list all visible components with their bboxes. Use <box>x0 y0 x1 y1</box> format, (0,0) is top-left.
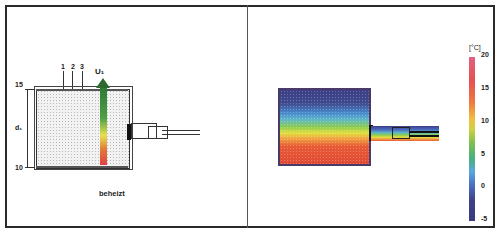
pipe-core-bottom <box>409 135 439 137</box>
pipe-core-top <box>409 131 439 133</box>
schematic-panel: 1 2 3 U₁ 15 10 d₁ beheizt <box>7 7 247 226</box>
colorbar-tick-10: 10 <box>481 117 489 124</box>
colorbar-tick-minus5: -5 <box>481 215 487 222</box>
temperature-colorbar <box>469 57 475 221</box>
colorbar-tick-0: 0 <box>481 182 485 189</box>
mesh-pattern <box>280 90 369 164</box>
pipe-line-bottom <box>162 134 200 135</box>
temperature-field <box>278 88 371 166</box>
heat-flow-arrow <box>100 87 107 165</box>
thermal-panel: [°C] 20 15 10 5 0 -5 <box>249 7 493 226</box>
colorbar-tick-20: 20 <box>481 51 489 58</box>
pipe-line-top <box>162 130 200 131</box>
colorbar-tick-15: 15 <box>481 84 489 91</box>
top-surface <box>36 89 128 91</box>
pipe-fitting <box>148 126 168 139</box>
layer-label-3: 3 <box>80 63 84 70</box>
insulation-layer <box>36 89 130 169</box>
pipe-fitting <box>392 127 410 139</box>
thickness-label: d₁ <box>15 124 22 131</box>
dimension-line <box>27 89 28 167</box>
dim-tick-bottom <box>25 167 35 168</box>
flow-label: U₁ <box>95 67 104 76</box>
layer-label-1: 1 <box>61 63 65 70</box>
top-mark: 15 <box>15 81 23 88</box>
layer-label-2: 2 <box>71 63 75 70</box>
arrow-head-icon <box>96 78 110 88</box>
bottom-surface <box>36 166 128 168</box>
caption-heated: beheizt <box>99 189 125 198</box>
bottom-mark: 10 <box>15 164 23 171</box>
colorbar-tick-5: 5 <box>481 150 485 157</box>
colorbar-unit: [°C] <box>469 44 481 51</box>
panel-divider <box>247 5 248 228</box>
